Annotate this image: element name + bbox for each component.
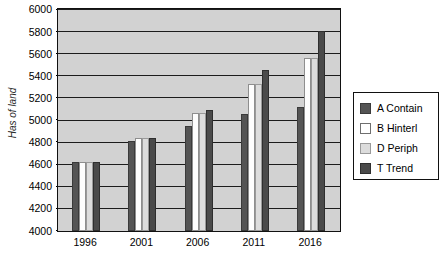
bar-group xyxy=(72,9,100,231)
legend-swatch-b-hinterl-icon xyxy=(360,123,371,134)
x-axis-tick-label: 2006 xyxy=(169,236,225,248)
bar-group xyxy=(241,9,269,231)
y-axis-tick-label: 5800 xyxy=(6,27,52,37)
bar xyxy=(93,162,100,231)
y-axis-tick-label: 4000 xyxy=(6,226,52,236)
y-axis-tick-label: 4400 xyxy=(6,181,52,191)
bar xyxy=(192,113,199,231)
legend-item-label: B Hinterl xyxy=(377,123,417,134)
y-axis-tick-label: 4800 xyxy=(6,137,52,147)
x-axis-tick-label: 1996 xyxy=(57,236,113,248)
bar xyxy=(199,113,206,231)
y-axis-tick-label: 4200 xyxy=(6,203,52,213)
legend-item[interactable]: B Hinterl xyxy=(360,118,438,138)
bar xyxy=(206,110,213,231)
bar xyxy=(311,58,318,231)
y-axis-tick-label: 6000 xyxy=(6,4,52,14)
y-axis-tick-label: 5400 xyxy=(6,71,52,81)
legend-swatch-d-periph-icon xyxy=(360,143,371,154)
legend-item[interactable]: T Trend xyxy=(360,158,438,178)
bar-group xyxy=(297,9,325,231)
bar xyxy=(128,141,135,231)
bar xyxy=(262,70,269,231)
legend-item[interactable]: A Contain xyxy=(360,98,438,118)
bar xyxy=(185,126,192,231)
bar-group xyxy=(128,9,156,231)
y-axis-tick-label: 4600 xyxy=(6,159,52,169)
bar xyxy=(86,162,93,231)
bar xyxy=(149,138,156,231)
x-axis-tick-labels: 19962001200620112016 xyxy=(57,236,341,254)
legend-item-label: A Contain xyxy=(377,103,423,114)
x-axis-tick-label: 2001 xyxy=(113,236,169,248)
y-axis-tick-label: 5200 xyxy=(6,93,52,103)
bar xyxy=(248,84,255,231)
y-axis-tick-label: 5600 xyxy=(6,49,52,59)
bar-chart: Has of land 4000420044004600480050005200… xyxy=(0,0,441,256)
bar xyxy=(255,84,262,231)
x-axis-tick-label: 2016 xyxy=(282,236,338,248)
bar xyxy=(241,114,248,231)
legend-item[interactable]: D Periph xyxy=(360,138,438,158)
plot-area xyxy=(57,8,341,232)
plot-inner xyxy=(58,9,340,231)
bar-group xyxy=(185,9,213,231)
y-axis-tick-labels: 4000420044004600480050005200540056005800… xyxy=(4,0,52,256)
legend-item-label: D Periph xyxy=(377,143,418,154)
legend-item-label: T Trend xyxy=(377,163,413,174)
x-axis-tick-label: 2011 xyxy=(226,236,282,248)
bar xyxy=(142,138,149,231)
bar xyxy=(318,31,325,231)
bar xyxy=(304,58,311,231)
bar xyxy=(135,138,142,231)
chart-legend: A ContainB HinterlD PeriphT Trend xyxy=(353,92,439,180)
bar xyxy=(72,162,79,231)
legend-swatch-t-trend-icon xyxy=(360,163,371,174)
legend-swatch-a-contain-icon xyxy=(360,103,371,114)
y-axis-tick-label: 5000 xyxy=(6,115,52,125)
bar xyxy=(79,162,86,231)
bar xyxy=(297,107,304,231)
